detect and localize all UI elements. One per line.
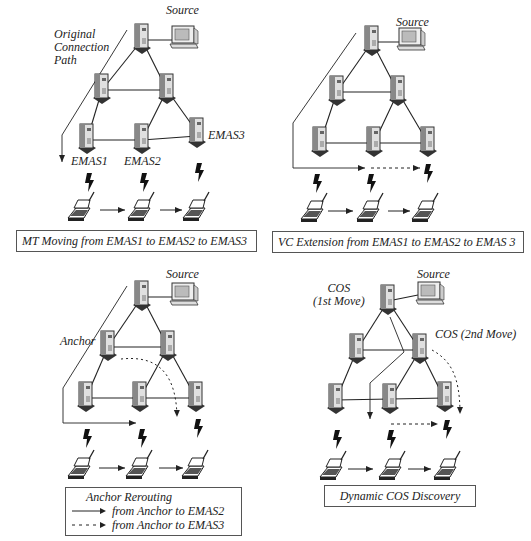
caption-dynamic-cos: Dynamic COS Discovery: [324, 485, 476, 507]
laptop-icon: [357, 193, 383, 222]
dashed-arrow-icon: [72, 521, 106, 529]
panel-anchor-rerouting: [63, 281, 208, 479]
wireless-icon: [85, 173, 94, 192]
source-label: Source: [417, 268, 450, 281]
wireless-icon: [195, 163, 204, 182]
emas1-label: EMAS1: [71, 155, 108, 168]
original-path-label: Original Connection Path: [54, 28, 109, 67]
server-icon: [419, 127, 437, 157]
server-icon: [187, 382, 205, 412]
server-icon: [77, 382, 95, 412]
wireless-icon: [387, 430, 396, 449]
source-label: Source: [166, 4, 199, 17]
wireless-icon: [194, 419, 203, 438]
server-icon: [159, 331, 177, 361]
server-icon: [363, 26, 381, 56]
server-icon: [389, 76, 407, 106]
server-icon: [188, 118, 206, 148]
source-label: Source: [396, 16, 429, 29]
server-icon: [328, 76, 346, 106]
laptop-icon: [68, 192, 94, 221]
source-label: Source: [166, 268, 199, 281]
legend-label: from Anchor to EMAS3: [112, 518, 224, 533]
legend-label: from Anchor to EMAS2: [112, 504, 224, 519]
laptop-icon: [434, 451, 460, 480]
laptop-icon: [412, 193, 438, 222]
wireless-icon: [313, 174, 322, 193]
anchor-path-dashed: [121, 358, 177, 417]
server-icon: [158, 74, 176, 104]
wireless-icon: [443, 420, 452, 439]
server-icon: [131, 382, 149, 412]
legend-title: Anchor Rerouting: [72, 490, 235, 504]
server-icon: [327, 384, 345, 414]
laptop-icon: [182, 450, 208, 479]
server-icon: [379, 285, 397, 315]
wireless-icon: [333, 430, 342, 449]
server-icon: [99, 331, 117, 361]
laptop-icon: [128, 192, 154, 221]
solid-arrow-icon: [72, 507, 106, 515]
diagram-canvas: [0, 0, 531, 541]
server-icon: [133, 24, 151, 54]
cos-label-line: (1st Move): [313, 295, 365, 308]
server-icon: [311, 127, 329, 157]
server-icon: [436, 382, 454, 412]
legend-anchor-rerouting: Anchor Rerouting from Anchor to EMAS2 fr…: [65, 487, 242, 536]
wireless-icon: [140, 173, 149, 192]
legend-item-dashed: from Anchor to EMAS3: [72, 518, 235, 532]
emas2-label: EMAS2: [124, 155, 161, 168]
server-icon: [78, 124, 96, 154]
laptop-icon: [320, 451, 346, 480]
laptop-icon: [126, 450, 152, 479]
anchor-label: Anchor: [60, 335, 95, 348]
laptop-icon: [68, 450, 94, 479]
panel-dynamic-cos: [320, 282, 460, 480]
server-icon: [381, 384, 399, 414]
server-icon: [348, 334, 366, 364]
wireless-icon: [138, 429, 147, 448]
server-icon: [133, 124, 151, 154]
caption-mt-moving: MT Moving from EMAS1 to EMAS2 to EMAS3: [16, 230, 257, 252]
server-icon: [133, 281, 151, 311]
laptop-icon: [379, 451, 405, 480]
server-icon: [93, 74, 111, 104]
server-icon: [411, 334, 429, 364]
laptop-icon: [183, 192, 209, 221]
wireless-icon: [424, 164, 433, 183]
path-label-line: Path: [54, 54, 109, 67]
server-icon: [365, 127, 383, 157]
wireless-icon: [367, 174, 376, 193]
wireless-icon: [83, 429, 92, 448]
cos-1st-move-label: COS (1st Move): [313, 282, 365, 308]
legend-item-solid: from Anchor to EMAS2: [72, 504, 235, 518]
caption-vc-extension: VC Extension from EMAS1 to EMAS2 to EMAS…: [272, 231, 524, 253]
emas3-label: EMAS3: [208, 129, 245, 142]
cos-2nd-move-label: COS (2nd Move): [435, 328, 516, 341]
anchor-path-solid: [63, 286, 136, 423]
panel-vc-extension: [293, 26, 438, 222]
laptop-icon: [301, 193, 327, 222]
